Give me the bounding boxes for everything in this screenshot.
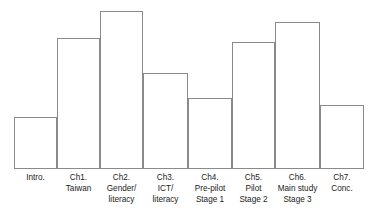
bar-ch7 bbox=[320, 105, 364, 168]
bar-ch4 bbox=[188, 98, 232, 168]
axis-label-ch3: Ch3.ICT/literacy bbox=[143, 172, 188, 205]
plot-area bbox=[0, 0, 378, 170]
axis-label-line: Pre-pilot bbox=[188, 183, 232, 194]
bar-intro bbox=[14, 117, 57, 168]
axis-label-line: Taiwan bbox=[57, 183, 100, 194]
axis-label-line: Ch6. bbox=[275, 172, 320, 183]
axis-label-line: Main study bbox=[275, 183, 320, 194]
bar-ch3 bbox=[143, 73, 188, 168]
axis-label-ch4: Ch4.Pre-pilotStage 1 bbox=[188, 172, 232, 205]
bar-ch5 bbox=[232, 42, 275, 168]
axis-label-line: Ch3. bbox=[143, 172, 188, 183]
axis-label-line: Pilot bbox=[232, 183, 275, 194]
category-axis-labels: Intro. Ch1.Taiwan Ch2.Gender/literacy Ch… bbox=[0, 170, 378, 224]
bar-ch2 bbox=[100, 11, 143, 168]
axis-label-line: Gender/ bbox=[100, 183, 143, 194]
axis-label-line: literacy bbox=[143, 194, 188, 205]
thesis-structure-bar-chart: Intro. Ch1.Taiwan Ch2.Gender/literacy Ch… bbox=[0, 0, 378, 224]
axis-label-intro: Intro. bbox=[14, 172, 57, 183]
axis-label-line: literacy bbox=[100, 194, 143, 205]
axis-label-line: Ch4. bbox=[188, 172, 232, 183]
axis-label-line: Stage 3 bbox=[275, 194, 320, 205]
axis-label-ch1: Ch1.Taiwan bbox=[57, 172, 100, 194]
axis-label-line: Ch1. bbox=[57, 172, 100, 183]
axis-label-ch2: Ch2.Gender/literacy bbox=[100, 172, 143, 205]
axis-label-line: Stage 1 bbox=[188, 194, 232, 205]
axis-label-line: ICT/ bbox=[143, 183, 188, 194]
axis-label-line: Ch7. bbox=[320, 172, 364, 183]
axis-label-line: Ch2. bbox=[100, 172, 143, 183]
axis-label-line: Stage 2 bbox=[232, 194, 275, 205]
axis-label-ch7: Ch7.Conc. bbox=[320, 172, 364, 194]
axis-label-line: Ch5. bbox=[232, 172, 275, 183]
axis-label-line: Conc. bbox=[320, 183, 364, 194]
axis-label-ch6: Ch6.Main studyStage 3 bbox=[275, 172, 320, 205]
axis-label-line: Intro. bbox=[14, 172, 57, 183]
axis-baseline bbox=[14, 168, 364, 169]
bar-ch6 bbox=[275, 22, 320, 168]
bar-ch1 bbox=[57, 38, 100, 168]
axis-label-ch5: Ch5.PilotStage 2 bbox=[232, 172, 275, 205]
